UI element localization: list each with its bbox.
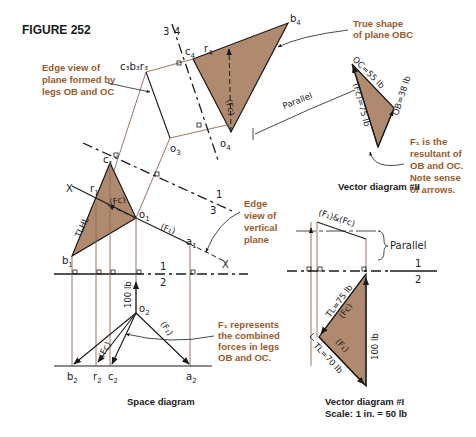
edge-view-line-view3 [146,72,170,138]
caption-space-diagram: Space diagram [127,396,195,407]
leader-arrow [278,30,348,47]
fold-label-1-top: 1 [216,189,222,200]
true-shape-plane-obc [193,23,288,132]
parallel-bracket [378,231,388,260]
label-c2: c2 [108,371,118,385]
label-a2: a2 [186,371,197,385]
svg-text:of plane OBC: of plane OBC [353,29,413,40]
fold-label-3: 3 [163,26,169,37]
label-a1: a1 [186,236,197,250]
label-c4: c4 [185,46,196,60]
label-load-view2: 100 lb [123,281,133,308]
label-x-left: X [66,183,73,194]
svg-text:vertical: vertical [244,222,277,233]
label-b2: b2 [67,371,78,385]
label-c1: c1 [103,154,113,168]
label-parallel-top: Parallel [281,90,314,110]
label-b4: b4 [290,13,301,27]
svg-text:True shape: True shape [353,18,403,29]
svg-text:the combined: the combined [218,330,280,341]
fold-label-v-top: 1 [415,258,421,269]
descriptive-geometry-figure: FIGURE 252 r4 b4 c4 o4 (Fc) 3 4 c₃b₃r₃ o… [0,0,476,437]
label-ob: OB=38 lb [390,75,412,117]
label-r2: r2 [93,371,102,385]
label-o3: o3 [170,143,181,157]
svg-text:Edge view of: Edge view of [42,62,101,73]
f1-vector-view2 [136,313,189,364]
projector [110,72,146,183]
caption-scale: Scale: 1 in. = 50 lb [325,408,407,419]
right-angle-mark [197,123,201,127]
leader-arrow [206,212,240,252]
note-true-shape: True shape of plane OBC [353,18,413,40]
note-edge-view-vertical: Edge view of vertical plane [244,198,277,245]
fold-label-1-2-top: 1 [160,261,166,272]
caption-vector-diagram-2: Vector diagram #II [338,181,420,192]
svg-text:resultant of: resultant of [410,148,463,159]
label-f1-view2: (F₁) [158,319,175,337]
note-fc-represents: F₁ represents the combined forces in leg… [218,319,280,363]
leader-arrow [370,152,404,166]
plane-obc-view1 [72,163,136,256]
svg-text:F₁ is the: F₁ is the [410,136,447,147]
svg-text:OB and OC.: OB and OC. [410,160,463,171]
fold-label-4: 4 [174,26,180,37]
svg-text:plane formed by: plane formed by [42,74,116,85]
label-f1-view1: (F₁) [159,221,176,236]
fold-label-v-bottom: 2 [415,274,421,285]
caption-vector-diagram-1: Vector diagram #I [325,396,404,407]
label-o2: o2 [139,303,150,317]
label-parallel-right: Parallel [390,240,426,251]
projector [170,124,231,138]
fold-label-3-bottom: 3 [210,205,216,216]
fold-label-1-2-bottom: 2 [160,277,166,288]
figure-title: FIGURE 252 [22,23,91,37]
svg-text:forces in legs: forces in legs [218,341,279,352]
svg-text:Edge: Edge [244,198,267,209]
label-c3b3r3: c₃b₃r₃ [120,61,148,72]
svg-text:plane: plane [244,234,269,245]
label-load-v1: 100 lb [370,333,380,360]
svg-text:OB and OC.: OB and OC. [218,352,271,363]
svg-text:view of: view of [244,210,277,221]
label-x-right: X [222,259,229,270]
projector [136,138,170,218]
label-o4: o4 [220,138,231,152]
svg-text:legs OB and OC: legs OB and OC [42,86,114,97]
right-angle-mark [114,153,118,157]
label-o1: o1 [139,209,150,223]
note-edge-view-obc: Edge view of plane formed by legs OB and… [42,62,116,97]
label-f1-and-fc: (F₁)&(Fc) [317,207,356,228]
svg-text:F₁ represents: F₁ represents [218,319,279,330]
label-r1: r1 [90,183,99,197]
